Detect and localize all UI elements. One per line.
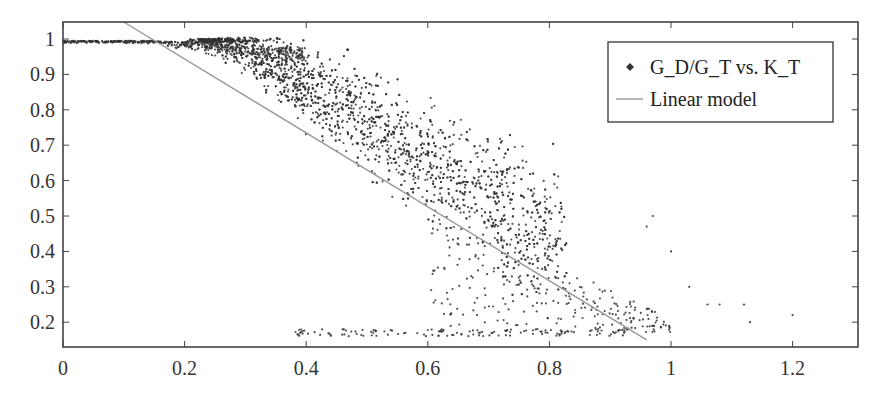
y-tick-label: 0.4 <box>30 240 55 262</box>
y-tick-label: 0.3 <box>30 276 55 298</box>
x-tick-label: 0.6 <box>415 357 440 379</box>
y-tick-label: 0.8 <box>30 99 55 121</box>
y-tick-label: 0.7 <box>30 134 55 156</box>
scatter-chart: 00.20.40.60.811.2 0.20.30.40.50.60.70.80… <box>0 0 877 393</box>
x-tick-label: 0.8 <box>537 357 562 379</box>
y-tick-label: 0.5 <box>30 205 55 227</box>
linear-model-line <box>124 22 647 340</box>
x-tick-label: 0.4 <box>294 357 319 379</box>
y-tick-label: 0.6 <box>30 170 55 192</box>
y-tick-label: 1 <box>45 28 55 50</box>
legend: G_D/G_T vs. K_T Linear model <box>608 42 833 122</box>
y-tick-label: 0.2 <box>30 311 55 333</box>
y-tick-label: 0.9 <box>30 63 55 85</box>
x-tick-label: 1 <box>666 357 676 379</box>
x-tick-label: 1.2 <box>780 357 805 379</box>
x-tick-label: 0.2 <box>172 357 197 379</box>
legend-label-line: Linear model <box>650 88 758 110</box>
legend-label-scatter: G_D/G_T vs. K_T <box>650 56 800 78</box>
x-tick-label: 0 <box>58 357 68 379</box>
